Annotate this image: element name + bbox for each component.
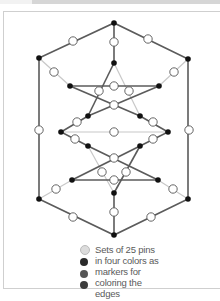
legend-dot-dark-gray: [80, 270, 88, 278]
legend-line: edges: [95, 288, 159, 299]
legend-line: Sets of 25 pins: [95, 244, 159, 255]
legend-line: coloring the: [95, 277, 159, 288]
legend-caption: Sets of 25 pins in four colors as marker…: [95, 244, 159, 299]
legend-line: markers for: [95, 266, 159, 277]
legend-dot-light-gray: [80, 245, 90, 255]
legend-line: in four colors as: [95, 255, 159, 266]
legend-color-dots: [80, 245, 90, 292]
legend-dot-black: [80, 258, 88, 266]
legend-dot-charcoal: [80, 281, 88, 289]
